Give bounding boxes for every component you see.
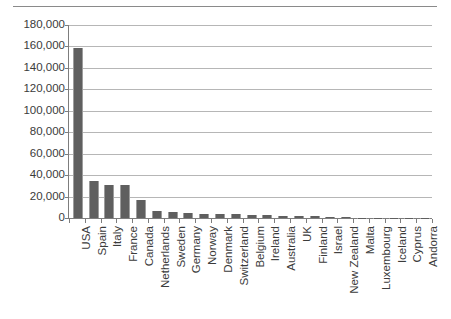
x-tick-label: Norway [207,226,218,265]
x-tick-label: Sweden [176,226,187,268]
x-tick-label: Finland [318,226,329,264]
x-tick-label: Canada [144,226,155,266]
x-tick-label: UK [302,226,313,242]
x-tick-label: Luxembourg [381,226,392,290]
x-tick-label: USA [81,226,92,250]
x-tick-label: Denmark [223,226,234,273]
x-tick-label: Cyprus [412,226,423,262]
bar-chart-figure: 180,000160,000140,000120,000100,00080,00… [0,0,451,319]
x-tick-label: Germany [191,226,202,273]
x-tick-label: Spain [97,226,108,255]
x-tick-label: Italy [112,226,123,247]
x-tick-label: Israel [333,226,344,254]
x-tick-label: Malta [365,226,376,254]
x-tick-label: Switzerland [239,226,250,285]
x-tick-label: Australia [286,226,297,271]
x-tick-label: France [128,226,139,262]
x-axis-category-labels: USASpainItalyFranceCanadaNetherlandsSwed… [0,0,451,319]
x-tick-label: Netherlands [160,226,171,288]
x-tick-label: Belgium [255,226,266,268]
x-tick-label: New Zealand [349,226,360,294]
x-tick-label: Andorra [428,226,439,267]
x-tick-label: Iceland [397,226,408,263]
x-tick-label: Ireland [270,226,281,261]
